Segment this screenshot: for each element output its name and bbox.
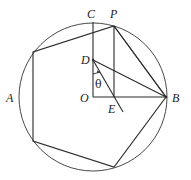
label-c: C (87, 7, 96, 21)
label-e: E (107, 102, 116, 116)
label-o: O (80, 91, 89, 105)
geometry-diagram: C P D O E B A θ (0, 0, 191, 180)
point-d-dot (92, 59, 94, 61)
label-a: A (5, 91, 14, 105)
label-p: P (109, 7, 118, 21)
label-theta: θ (95, 78, 102, 91)
point-b-dot (165, 96, 167, 98)
label-d: D (80, 53, 90, 67)
label-b: B (172, 91, 180, 105)
